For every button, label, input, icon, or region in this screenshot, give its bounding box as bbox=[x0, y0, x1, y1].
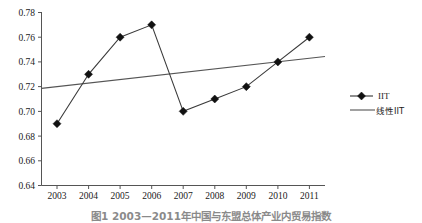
data-point-marker bbox=[148, 21, 156, 29]
data-point-marker bbox=[179, 107, 187, 115]
chart-legend: IIT 线性IIT bbox=[350, 91, 405, 116]
y-axis-tick-labels: 0.78 0.76 0.74 0.72 0.70 0.68 0.66 0.64 bbox=[18, 8, 35, 191]
x-tick-label: 2011 bbox=[300, 191, 319, 201]
x-axis-ticks bbox=[57, 186, 309, 190]
data-point-marker bbox=[211, 95, 219, 103]
data-point-marker bbox=[53, 120, 61, 128]
x-axis-tick-labels: 2003 2004 2005 2006 2007 2008 2009 2010 … bbox=[48, 191, 319, 201]
x-tick-label: 2004 bbox=[79, 191, 98, 201]
x-tick-label: 2009 bbox=[237, 191, 256, 201]
x-tick-label: 2008 bbox=[205, 191, 224, 201]
y-tick-label: 0.76 bbox=[18, 33, 35, 43]
y-tick-label: 0.78 bbox=[18, 8, 35, 18]
x-tick-label: 2005 bbox=[111, 191, 130, 201]
series-iit-markers bbox=[53, 21, 313, 128]
legend-item-iit[interactable]: IIT bbox=[350, 91, 390, 101]
x-tick-label: 2006 bbox=[142, 191, 161, 201]
x-tick-label: 2007 bbox=[174, 191, 193, 201]
y-tick-label: 0.64 bbox=[18, 181, 35, 191]
y-tick-label: 0.70 bbox=[18, 107, 35, 117]
legend-label-linear-iit: 线性IIT bbox=[376, 106, 405, 116]
line-chart: 0.78 0.76 0.74 0.72 0.70 0.68 0.66 0.64 … bbox=[0, 0, 422, 223]
y-axis-ticks bbox=[38, 13, 42, 186]
series-trendline-linear-iit bbox=[42, 56, 326, 88]
y-tick-label: 0.68 bbox=[18, 132, 35, 142]
x-tick-label: 2003 bbox=[48, 191, 67, 201]
y-tick-label: 0.66 bbox=[18, 156, 35, 166]
legend-item-linear-iit[interactable]: 线性IIT bbox=[350, 106, 405, 116]
figure-caption: 图1 2003—2011年中国与东盟总体产业内贸易指数 bbox=[0, 209, 422, 223]
chart-axes bbox=[42, 12, 326, 186]
diamond-marker-icon bbox=[358, 92, 366, 100]
figure-container: 0.78 0.76 0.74 0.72 0.70 0.68 0.66 0.64 … bbox=[0, 0, 422, 223]
x-tick-label: 2010 bbox=[268, 191, 287, 201]
y-tick-label: 0.74 bbox=[18, 57, 35, 67]
y-tick-label: 0.72 bbox=[18, 82, 35, 92]
legend-label-iit: IIT bbox=[378, 91, 390, 101]
